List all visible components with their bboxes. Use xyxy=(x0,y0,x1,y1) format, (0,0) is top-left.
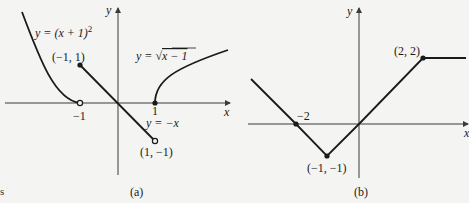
panel-a: x y y = (x + 1)2 (−1, 1) y = √x − 1 −1 1… xyxy=(5,3,230,199)
stray-text: s xyxy=(0,185,4,197)
label-point-neg1-neg1: (−1, −1) xyxy=(307,161,347,175)
caption-b: (b) xyxy=(354,185,368,199)
label-sqrt: y = √x − 1 xyxy=(135,49,187,63)
label-line: y = −x xyxy=(145,116,180,130)
y-axis-label-a: y xyxy=(105,3,112,17)
tick-label-neg2: −2 xyxy=(297,109,310,123)
label-point-2-2: (2, 2) xyxy=(394,44,420,58)
label-parabola: y = (x + 1)2 xyxy=(34,24,92,40)
x-axis-label-a: x xyxy=(223,105,230,119)
panel-b: x y −2 (−1, −1) (2, 2) (b) xyxy=(248,4,469,199)
open-point-neg1-0 xyxy=(77,100,82,105)
x-axis-label-b: x xyxy=(463,126,469,140)
point-neg1-neg1 xyxy=(324,153,329,158)
point-2-2 xyxy=(420,55,425,60)
figure: x y y = (x + 1)2 (−1, 1) y = √x − 1 −1 1… xyxy=(0,0,469,203)
label-point-neg1-1: (−1, 1) xyxy=(52,50,85,64)
y-axis-label-b: y xyxy=(346,4,353,18)
label-point-1-neg1: (1, −1) xyxy=(140,145,173,159)
tick-label-neg1: −1 xyxy=(73,109,86,123)
caption-a: (a) xyxy=(130,185,143,199)
open-point-1-neg1 xyxy=(152,138,157,143)
